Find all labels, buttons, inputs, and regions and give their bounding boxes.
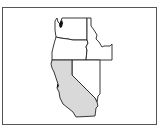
locator-map (0, 0, 165, 130)
state-idaho[interactable] (86, 18, 112, 60)
state-oregon[interactable] (52, 37, 88, 60)
state-washington[interactable] (55, 18, 87, 40)
